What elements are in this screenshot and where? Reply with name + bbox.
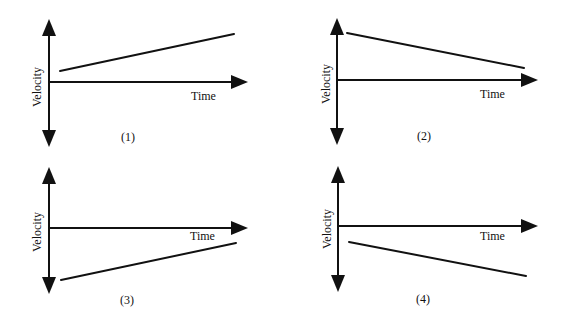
arrow-up-icon: [331, 166, 345, 183]
arrow-down-icon: [42, 130, 56, 147]
arrow-up-icon: [42, 167, 56, 184]
time-label: Time: [480, 229, 505, 243]
panel-caption: (4): [416, 292, 430, 306]
arrow-down-icon: [330, 128, 344, 145]
velocity-label: Velocity: [30, 212, 44, 252]
panel-4: Time Velocity (4): [320, 166, 538, 306]
panel-2: Time Velocity (2): [319, 18, 538, 145]
arrow-down-icon: [331, 275, 345, 292]
panel-caption: (3): [120, 293, 134, 307]
velocity-line: [347, 33, 524, 68]
panel-caption: (1): [121, 130, 135, 144]
arrow-right-icon: [231, 221, 248, 235]
velocity-line: [349, 242, 526, 276]
time-label: Time: [190, 229, 215, 243]
time-label: Time: [480, 87, 505, 101]
arrow-right-icon: [231, 75, 248, 89]
arrow-down-icon: [42, 277, 56, 294]
panel-1: Time Velocity (1): [30, 19, 248, 147]
velocity-label: Velocity: [319, 64, 333, 104]
velocity-label: Velocity: [320, 209, 334, 249]
panel-3: Time Velocity (3): [30, 167, 248, 307]
velocity-line: [61, 243, 236, 280]
arrow-right-icon: [521, 73, 538, 87]
time-label: Time: [191, 89, 216, 103]
velocity-time-diagram: Time Velocity (1) Time Velocity (2) Time…: [0, 0, 570, 325]
arrow-up-icon: [42, 19, 56, 36]
arrow-up-icon: [330, 18, 344, 35]
panel-caption: (2): [417, 129, 431, 143]
velocity-label: Velocity: [30, 67, 44, 107]
arrow-right-icon: [521, 219, 538, 233]
velocity-line: [60, 34, 234, 71]
